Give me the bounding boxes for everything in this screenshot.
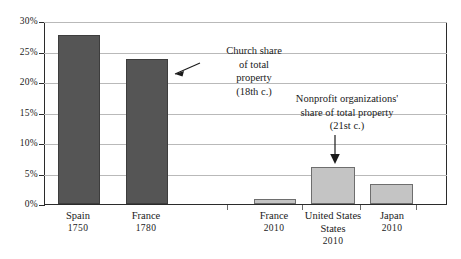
- bar-france-2010[interactable]: [254, 199, 296, 204]
- gridline: [44, 175, 447, 176]
- arrow-to-nonprofit-bar: [326, 135, 344, 165]
- y-tick-label-5: 5%: [2, 169, 38, 179]
- annotation-line: share of total property: [272, 106, 422, 120]
- y-tickmark: [39, 114, 44, 115]
- x-label-name: Japan: [342, 209, 442, 222]
- y-tickmark: [39, 175, 44, 176]
- y-tick-label-10: 10%: [2, 138, 38, 148]
- bar-japan-2010[interactable]: [370, 184, 413, 204]
- annotation-line: Church share: [196, 44, 312, 58]
- annotation-line: (21st c.): [272, 119, 422, 133]
- gridline: [44, 144, 447, 145]
- y-tickmark: [39, 205, 44, 206]
- annotation-line: property: [196, 71, 312, 85]
- bar-chart-figure: 30% 25% 20% 15% 10% 5%: [0, 0, 461, 259]
- x-label-name: France: [96, 209, 196, 222]
- x-label-year: 1780: [96, 222, 196, 235]
- annotation-line: of total: [196, 58, 312, 72]
- y-tick-label-30: 30%: [2, 16, 38, 26]
- gridline: [44, 22, 447, 23]
- bar-france-1780[interactable]: [126, 59, 168, 204]
- arrow-to-church-bar: [166, 60, 202, 82]
- x-axis-label-japan-2010: Japan 2010: [342, 209, 442, 235]
- y-tickmark: [39, 144, 44, 145]
- bar-spain-1750[interactable]: [58, 35, 100, 204]
- y-tickmark: [39, 53, 44, 54]
- x-axis-label-france-1780: France 1780: [96, 209, 196, 235]
- y-tickmark: [39, 83, 44, 84]
- annotation-church-share: Church share of total property (18th c.): [196, 44, 312, 98]
- bar-united-states-2010[interactable]: [311, 167, 355, 204]
- annotation-nonprofit-share: Nonprofit organizations' share of total …: [272, 92, 422, 133]
- y-tickmark: [39, 22, 44, 23]
- annotation-line: Nonprofit organizations': [272, 92, 422, 106]
- y-tick-label-15: 15%: [2, 108, 38, 118]
- x-label-year: 2010: [342, 222, 442, 235]
- y-tick-label-25: 25%: [2, 47, 38, 57]
- x-label-year: 2010: [283, 235, 383, 248]
- y-tick-label-20: 20%: [2, 77, 38, 87]
- y-tick-label-0: 0%: [2, 199, 38, 209]
